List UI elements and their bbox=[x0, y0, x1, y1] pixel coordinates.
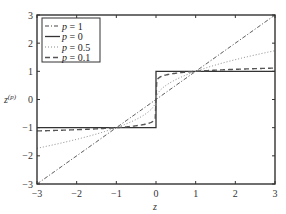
y-tick-label: −2 bbox=[22, 150, 33, 161]
x-tick-label: 0 bbox=[154, 188, 159, 199]
legend-label: p = 0.1 bbox=[61, 52, 90, 63]
legend: p = 1p = 0p = 0.5p = 0.1 bbox=[42, 18, 100, 63]
chart: −3−2−10123−3−2−10123 z z(p) p = 1p = 0p … bbox=[0, 0, 286, 214]
legend-label: p = 0 bbox=[61, 31, 83, 42]
y-tick-label: 1 bbox=[28, 66, 33, 77]
y-axis-label: z(p) bbox=[3, 93, 17, 105]
y-tick-label: −3 bbox=[22, 179, 33, 190]
x-tick-label: −3 bbox=[32, 188, 43, 199]
y-tick-label: 2 bbox=[28, 38, 33, 49]
legend-label: p = 1 bbox=[61, 21, 83, 32]
x-tick-label: 2 bbox=[233, 188, 238, 199]
y-tick-label: 3 bbox=[28, 10, 33, 21]
x-tick-label: −1 bbox=[111, 188, 122, 199]
y-tick-label: −1 bbox=[22, 122, 33, 133]
legend-label: p = 0.5 bbox=[61, 42, 90, 53]
x-tick-label: 3 bbox=[273, 188, 278, 199]
x-tick-label: −2 bbox=[71, 188, 82, 199]
x-axis-label: z bbox=[152, 201, 157, 212]
x-tick-label: 1 bbox=[193, 188, 198, 199]
y-tick-label: 0 bbox=[28, 94, 33, 105]
